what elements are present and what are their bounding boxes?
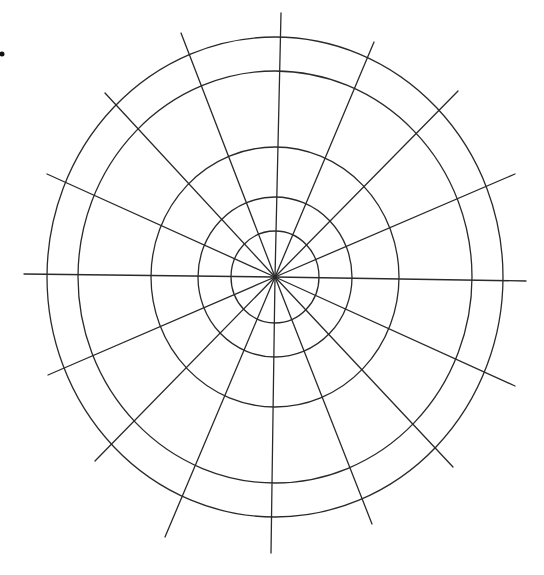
spoke-7 [275, 277, 453, 467]
spoke-11 [95, 277, 275, 461]
spoke-13 [24, 274, 275, 277]
radial-spokes [24, 13, 526, 553]
spoke-9 [271, 277, 275, 553]
spoke-5 [275, 277, 526, 281]
polar-grid-diagram [0, 0, 544, 575]
marker-dot [0, 52, 5, 57]
spoke-1 [275, 13, 281, 277]
spoke-4 [275, 174, 515, 277]
spoke-12 [48, 277, 275, 375]
spoke-3 [275, 91, 458, 277]
spoke-10 [165, 277, 275, 537]
spoke-15 [105, 93, 275, 277]
